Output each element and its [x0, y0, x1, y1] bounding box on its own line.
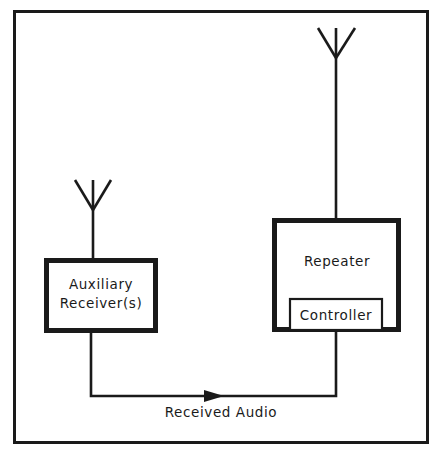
received-audio-connection [91, 332, 336, 402]
auxiliary-receivers-label-line1: Auxiliary [69, 276, 133, 292]
auxiliary-receivers-block: Auxiliary Receiver(s) [47, 261, 156, 331]
block-diagram: Repeater Controller Auxiliary Receiver(s… [0, 0, 441, 455]
auxiliary-antenna-left-arm [75, 180, 93, 210]
diagram-canvas: Repeater Controller Auxiliary Receiver(s… [0, 0, 441, 455]
controller-block: Controller [290, 299, 382, 330]
received-audio-arrowhead [204, 390, 224, 402]
repeater-label: Repeater [304, 253, 370, 269]
received-audio-line [91, 332, 336, 396]
repeater-antenna-right-arm [336, 28, 355, 58]
auxiliary-antenna-right-arm [93, 180, 111, 210]
received-audio-label: Received Audio [165, 404, 277, 420]
repeater-antenna-left-arm [318, 28, 336, 58]
auxiliary-antenna-icon [75, 180, 111, 258]
repeater-antenna-icon [318, 28, 355, 218]
auxiliary-receivers-label-line2: Receiver(s) [60, 295, 143, 311]
controller-label: Controller [300, 307, 372, 323]
